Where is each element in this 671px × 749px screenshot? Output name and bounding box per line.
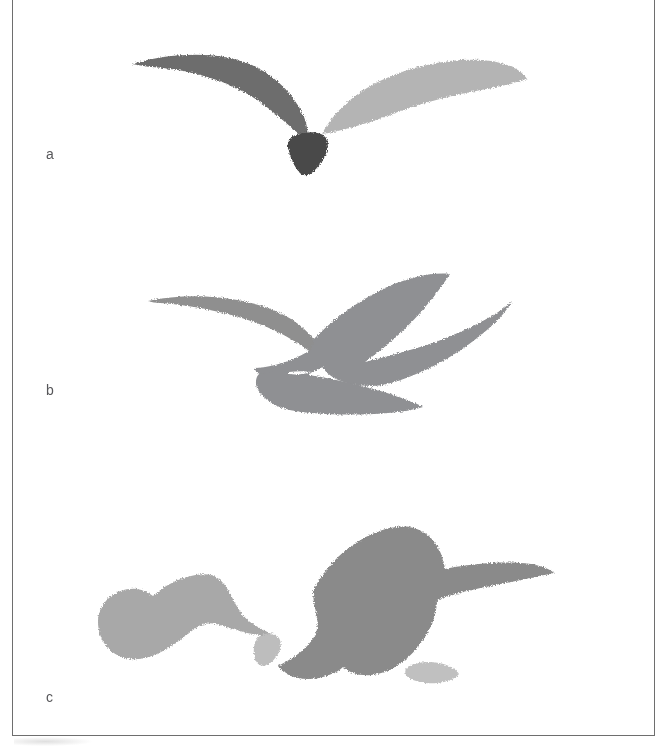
- shape-small-fragment-bottom: [405, 662, 459, 683]
- panel-a: a: [13, 0, 654, 248]
- scan-artifact-smudge: [14, 737, 92, 746]
- shape-left-fragment: [98, 574, 273, 659]
- panel-a-artwork: [13, 0, 654, 248]
- panel-c: c: [13, 496, 654, 734]
- figure-page: a b: [0, 0, 671, 749]
- shape-gull-silhouette: [148, 296, 323, 362]
- shape-large-right-fragment: [278, 527, 554, 679]
- panel-b-artwork: [13, 248, 654, 496]
- panel-c-artwork: [13, 496, 654, 734]
- panel-b: b: [13, 248, 654, 496]
- shape-small-fragment-left: [254, 633, 281, 665]
